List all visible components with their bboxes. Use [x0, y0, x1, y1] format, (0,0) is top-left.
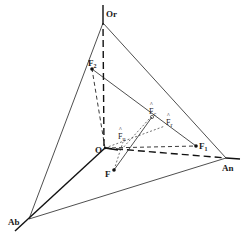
construction-lines [92, 69, 196, 170]
label-an: An [222, 163, 234, 173]
line-f-fu [114, 142, 123, 170]
axes [15, 5, 240, 231]
edge-or-ab [29, 23, 103, 219]
points [90, 67, 198, 172]
label-fc: Fc ^ [149, 101, 156, 117]
label-or: Or [106, 9, 117, 19]
point-o [104, 147, 106, 149]
label-ab: Ab [8, 217, 20, 227]
svg-text:Fr: Fr [166, 118, 172, 128]
hat-fr: ^ [167, 112, 170, 118]
label-o: O [95, 145, 102, 155]
axis-an-extension [226, 158, 240, 159]
axis-an [105, 148, 226, 158]
vertex-labels: Or O An Ab [8, 9, 234, 227]
line-o-fr [105, 126, 165, 148]
line-f-fc [114, 117, 152, 170]
label-f2: F2 [88, 58, 97, 69]
tetrahedron-edges [29, 23, 226, 219]
label-fu: Fu ^ [118, 126, 125, 142]
label-fr: Fr ^ [166, 112, 172, 128]
point-f [112, 168, 116, 172]
axis-or [103, 23, 104, 146]
hat-fu: ^ [119, 126, 122, 132]
svg-text:Fc: Fc [149, 107, 156, 117]
hat-fc: ^ [150, 101, 153, 107]
tetrahedron-diagram: Or O An Ab F2 F1 Fc ^ Fr ^ Fu ^ F [0, 0, 247, 237]
svg-text:Fu: Fu [118, 132, 125, 142]
point-f1 [194, 144, 198, 148]
edge-ab-an [29, 158, 226, 219]
axis-ab [15, 148, 105, 231]
line-o-f1 [105, 146, 196, 148]
line-fu-fc [121, 118, 150, 150]
label-f1: F1 [199, 141, 208, 152]
label-f: F [105, 169, 111, 179]
